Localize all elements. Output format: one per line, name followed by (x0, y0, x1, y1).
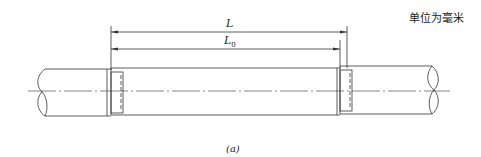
right-pipe (340, 66, 438, 114)
dimension-L0-subscript: 0 (231, 41, 235, 49)
dimension-L-text: L (226, 17, 233, 30)
arrow-L0-right (333, 48, 340, 51)
unit-note: 单位为毫米 (409, 9, 464, 25)
left-joint (107, 69, 123, 116)
dimension-label-L: L (226, 17, 233, 30)
arrow-L0-left (111, 48, 118, 51)
figure-caption: (a) (226, 143, 240, 154)
arrow-L-right (340, 31, 347, 34)
left-pipe (38, 69, 107, 116)
center-pipe (111, 68, 337, 115)
arrow-L-left (111, 31, 118, 34)
dimension-label-L0: L0 (224, 34, 236, 49)
